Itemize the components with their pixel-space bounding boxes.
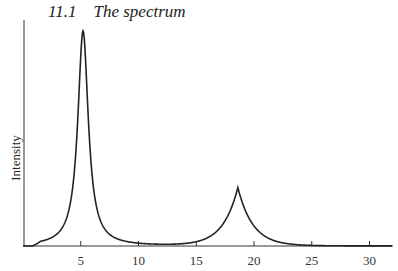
x-tick-label: 10 (132, 253, 145, 268)
x-tick-label: 25 (305, 253, 318, 268)
x-tick-label: 20 (248, 253, 261, 268)
spectrum-curve (23, 31, 392, 246)
x-tick-label: 5 (78, 253, 85, 268)
spectrum-chart: 51015202530 (0, 0, 398, 271)
x-tick-label: 15 (190, 253, 203, 268)
x-tick-label: 30 (363, 253, 376, 268)
